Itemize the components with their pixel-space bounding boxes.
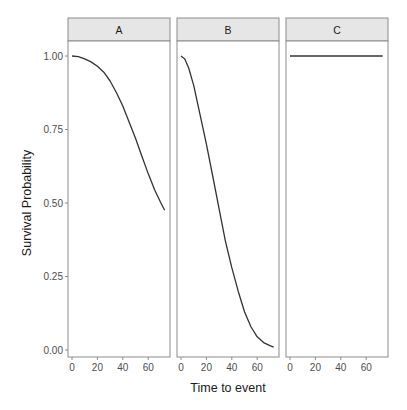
facet-panel-c: C0204060 <box>286 18 388 373</box>
y-tick-label: 0.75 <box>44 124 64 135</box>
x-tick-label: 60 <box>143 362 155 373</box>
x-axis-title: Time to event <box>190 381 266 395</box>
facet-strip-label: A <box>115 24 122 36</box>
x-tick-label: 0 <box>178 362 184 373</box>
x-tick-label: 0 <box>287 362 293 373</box>
plot-panel <box>177 41 279 357</box>
x-tick-label: 40 <box>117 362 129 373</box>
x-tick-label: 60 <box>361 362 373 373</box>
y-axis-title: Survival Probability <box>20 149 34 256</box>
x-tick-label: 40 <box>335 362 347 373</box>
x-tick-label: 20 <box>310 362 322 373</box>
y-tick-label: 0.50 <box>44 198 64 209</box>
x-tick-label: 0 <box>69 362 75 373</box>
facet-panel-b: B0204060 <box>177 18 279 373</box>
y-tick-label: 0.25 <box>44 271 64 282</box>
y-axis: 0.000.250.500.751.00 <box>44 51 68 356</box>
x-tick-label: 60 <box>252 362 264 373</box>
y-tick-label: 0.00 <box>44 345 64 356</box>
facet-panel-a: A0204060 <box>68 18 170 373</box>
facet-strip-label: C <box>333 24 341 36</box>
x-tick-label: 20 <box>201 362 213 373</box>
facet-strip-label: B <box>224 24 231 36</box>
plot-panel <box>68 41 170 357</box>
plot-panel <box>286 41 388 357</box>
x-tick-label: 40 <box>226 362 238 373</box>
x-tick-label: 20 <box>92 362 104 373</box>
faceted-survival-chart: A0204060B0204060C0204060 0.000.250.500.7… <box>0 0 407 410</box>
y-tick-label: 1.00 <box>44 51 64 62</box>
